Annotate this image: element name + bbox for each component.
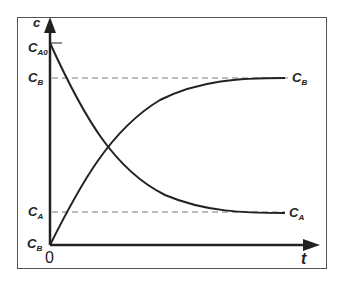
ca0-label: CA0 [28,40,48,55]
y-axis-label: c [33,15,40,30]
cb0-label: CB [27,236,42,251]
ca-curve-label: CA [289,205,304,220]
origin-label: 0 [45,249,54,267]
y-axis-arrow-icon [44,17,56,33]
cb-curve [50,78,285,245]
x-axis-label: t [301,250,306,268]
frame [18,18,327,269]
cb-label: CB [28,70,43,85]
ca-curve [50,43,285,213]
ca-label: CA [28,204,43,219]
diagram-canvas [0,0,345,284]
concentration-time-diagram: c CA0 CB CA CB CB CA 0 t [0,0,345,284]
cb-curve-label: CB [292,70,307,85]
